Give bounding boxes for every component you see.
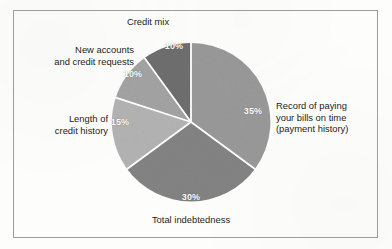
category-label-length-credit-history: Length of credit history	[55, 113, 108, 136]
slice-value-new-accounts: 10%	[124, 69, 142, 79]
category-label-payment-history-line1: Record of paying	[276, 100, 348, 112]
category-label-credit-mix: Credit mix	[127, 16, 169, 28]
pie-chart: 35% 30% 15% 10% 10% Credit mix New accou…	[0, 0, 392, 249]
category-label-payment-history-line3: (payment history)	[276, 123, 348, 135]
category-label-total-indebtedness-line1: Total indebtedness	[152, 214, 230, 226]
category-label-length-credit-history-line1: Length of	[55, 113, 108, 125]
category-label-payment-history-line2: your bills on time	[276, 112, 348, 124]
category-label-total-indebtedness: Total indebtedness	[152, 214, 230, 226]
category-label-new-accounts-line2: and credit requests	[54, 56, 134, 68]
slice-value-payment-history: 35%	[244, 106, 262, 116]
category-label-new-accounts-line1: New accounts	[54, 44, 134, 56]
slice-value-credit-mix: 10%	[165, 41, 183, 51]
slice-value-total-indebtedness: 30%	[182, 192, 200, 202]
category-label-credit-mix-line1: Credit mix	[127, 16, 169, 28]
slice-value-length-credit-history: 15%	[111, 117, 129, 127]
category-label-payment-history: Record of paying your bills on time (pay…	[276, 100, 348, 135]
category-label-length-credit-history-line2: credit history	[55, 125, 108, 137]
category-label-new-accounts: New accounts and credit requests	[54, 44, 134, 67]
